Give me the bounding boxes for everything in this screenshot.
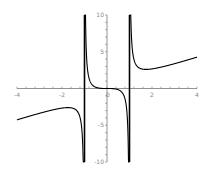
x-tick-label: -4 <box>14 91 20 98</box>
x-tick-label: 0 <box>106 91 110 98</box>
x-tick-label: -2 <box>59 91 65 98</box>
y-tick-label: -10 <box>94 158 104 165</box>
x-tick-label: 4 <box>195 91 199 98</box>
x-tick-label: 2 <box>150 91 154 98</box>
y-tick-label: 5 <box>100 48 104 55</box>
function-plot: -4-2024-10-5510 <box>0 0 209 172</box>
y-tick-label: 10 <box>96 11 104 18</box>
function-curve <box>130 15 197 69</box>
function-curve <box>17 108 84 162</box>
y-tick-label: -5 <box>98 121 104 128</box>
